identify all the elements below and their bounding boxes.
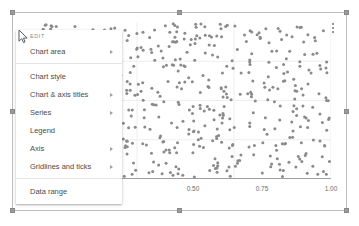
scatter-point (240, 71, 243, 74)
scatter-point (210, 35, 213, 38)
menu-item-label: Chart style (30, 72, 109, 81)
scatter-point (231, 155, 234, 158)
scatter-point (173, 146, 176, 149)
scatter-point (192, 120, 195, 123)
scatter-point (131, 142, 134, 145)
resize-handle-middle-left[interactable] (10, 109, 15, 114)
scatter-point (159, 95, 162, 98)
scatter-point (317, 92, 320, 95)
scatter-point (148, 36, 151, 39)
scatter-point (134, 126, 137, 129)
scatter-point (306, 172, 309, 175)
scatter-point (127, 126, 130, 129)
scatter-point (225, 169, 228, 172)
scatter-point (221, 72, 224, 75)
scatter-point (179, 58, 182, 61)
scatter-point (149, 128, 152, 131)
scatter-point (276, 87, 279, 90)
scatter-point (173, 36, 176, 39)
resize-handle-bottom-right[interactable] (344, 208, 349, 213)
scatter-point (288, 136, 291, 139)
scatter-point (191, 151, 194, 154)
scatter-point (228, 128, 231, 131)
resize-handle-middle-right[interactable] (344, 109, 349, 114)
scatter-point (261, 171, 264, 174)
scatter-point (215, 35, 218, 38)
scatter-point (150, 51, 153, 54)
menu-item-chart-area[interactable]: Chart area (16, 42, 122, 60)
scatter-point (181, 174, 184, 177)
scatter-point (248, 60, 251, 63)
scatter-point (295, 114, 298, 117)
scatter-point (140, 90, 143, 93)
chart-overflow-menu-icon[interactable] (327, 19, 339, 37)
scatter-point (252, 153, 255, 156)
scatter-point (172, 64, 175, 67)
scatter-point (143, 125, 146, 128)
scatter-point (239, 93, 242, 96)
resize-handle-bottom-left[interactable] (10, 208, 15, 213)
scatter-point (298, 158, 301, 161)
scatter-point (136, 93, 139, 96)
scatter-point (292, 110, 295, 113)
scatter-point (275, 149, 278, 152)
scatter-point (180, 87, 183, 90)
scatter-point (168, 148, 171, 151)
resize-handle-bottom-center[interactable] (177, 208, 182, 213)
scatter-point (186, 51, 189, 54)
scatter-point (197, 138, 200, 141)
scatter-point (124, 146, 127, 149)
scatter-point (158, 136, 161, 139)
scatter-point (206, 85, 209, 88)
scatter-point (215, 137, 218, 140)
scatter-point (206, 105, 209, 108)
menu-item-chart-and-axis-titles[interactable]: Chart & axis titles (16, 85, 122, 103)
scatter-point (311, 106, 314, 109)
scatter-point (295, 107, 298, 110)
scatter-point (298, 65, 301, 68)
scatter-point (297, 155, 300, 158)
menu-item-legend[interactable]: Legend (16, 121, 122, 139)
scatter-point (44, 24, 47, 27)
scatter-point (199, 104, 202, 107)
menu-item-gridlines-and-ticks[interactable]: Gridlines and ticks (16, 157, 122, 175)
resize-handle-top-right[interactable] (344, 10, 349, 15)
scatter-point (176, 86, 179, 89)
scatter-point (278, 163, 281, 166)
scatter-point (211, 139, 214, 142)
context-menu-item-list: Chart areaChart styleChart & axis titles… (16, 42, 122, 200)
menu-item-chart-style[interactable]: Chart style (16, 67, 122, 85)
scatter-point (157, 163, 160, 166)
scatter-point (192, 105, 195, 108)
scatter-point (269, 155, 272, 158)
scatter-point (194, 23, 197, 26)
scatter-point (126, 80, 129, 83)
scatter-point (328, 117, 331, 120)
scatter-point (324, 66, 327, 69)
scatter-point (325, 60, 328, 63)
menu-item-series[interactable]: Series (16, 103, 122, 121)
chart-context-menu[interactable]: EDIT Chart areaChart styleChart & axis t… (16, 30, 122, 204)
resize-handle-top-left[interactable] (10, 10, 15, 15)
menu-item-data-range[interactable]: Data range (16, 182, 122, 200)
scatter-point (303, 53, 306, 56)
scatter-point (150, 152, 153, 155)
scatter-point (129, 71, 132, 74)
scatter-point (283, 79, 286, 82)
scatter-point (293, 98, 296, 101)
scatter-point (142, 49, 145, 52)
scatter-point (280, 38, 283, 41)
menu-item-label: Axis (30, 144, 109, 153)
resize-handle-top-center[interactable] (177, 10, 182, 15)
menu-item-axis[interactable]: Axis (16, 139, 122, 157)
scatter-point (253, 144, 256, 147)
scatter-point (216, 128, 219, 131)
scatter-point (266, 133, 269, 136)
scatter-point (134, 169, 137, 172)
x-axis-tick-label: 0.75 (256, 185, 269, 192)
scatter-point (171, 174, 174, 177)
scatter-point (278, 119, 281, 122)
submenu-arrow-icon (109, 146, 114, 151)
x-axis-tick-label: 1.00 (325, 185, 338, 192)
scatter-point (198, 145, 201, 148)
